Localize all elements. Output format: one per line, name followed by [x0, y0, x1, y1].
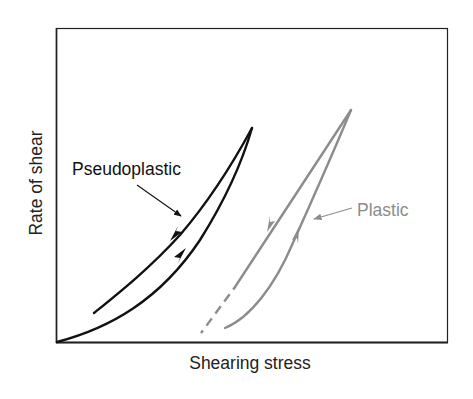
y-axis-label: Rate of shear: [26, 130, 46, 235]
plastic-label: Plastic: [357, 200, 409, 220]
plastic-down-line: [235, 110, 351, 287]
x-axis-label: Shearing stress: [189, 353, 311, 373]
pseudoplastic-down-curve: [94, 128, 252, 313]
plastic-leader-line: [314, 208, 352, 219]
rheogram-figure: Pseudoplastic Plastic Shearing stress Ra…: [0, 0, 473, 399]
pseudoplastic-label: Pseudoplastic: [72, 159, 181, 179]
pseudoplastic-leader-line: [137, 185, 181, 216]
rheogram-svg: Pseudoplastic Plastic Shearing stress Ra…: [0, 0, 473, 399]
